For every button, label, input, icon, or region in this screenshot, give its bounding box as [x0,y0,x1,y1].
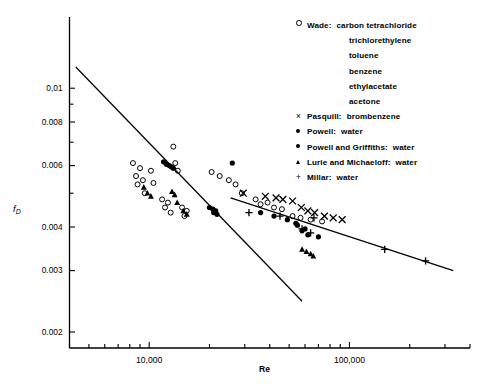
legend-entry: ×Pasquill:brombenzene [296,109,481,124]
data-point-filled-triangle [174,199,180,205]
x-axis-label: Re [259,364,270,374]
data-point-filled-triangle [141,184,147,190]
data-point-filled-circle [230,160,235,165]
y-tick-label: 0,01 [0,83,63,93]
chart-legend: Wade:carbon tetrachloridetrichlorethylen… [296,18,481,185]
legend-substance-label: trichlorethylene [296,33,411,48]
data-point-open-circle [217,174,222,179]
y-tick-label: 0.003 [0,265,63,275]
x-tick-label: 100,000 [309,355,389,365]
data-point-filled-circle [271,213,276,218]
data-point-open-circle [140,178,145,183]
y-tick-label: 0.008 [0,117,63,127]
data-point-filled-circle [214,212,219,217]
data-point-open-circle [226,178,231,183]
legend-marker-filled-circle-icon [296,140,307,155]
legend-author-label: Powell: [307,124,336,139]
data-point-open-circle [165,200,170,205]
trend-line [231,198,454,271]
legend-author-label: Powell and Griffiths: [307,140,388,155]
data-point-open-circle [253,197,258,202]
y-tick-label: 0.006 [0,160,63,170]
data-point-filled-circle [171,166,176,171]
data-point-cross-x [273,194,280,201]
data-point-cross-x [298,204,305,211]
data-point-open-circle [135,182,140,187]
legend-author-label: Lurie and Michaeloff: [307,155,391,170]
legend-entry: toluene [296,48,481,63]
data-point-open-circle [168,210,173,215]
data-point-cross-x [304,207,311,214]
legend-substance-label: ethylacetate [296,79,397,94]
trend-line [76,67,302,301]
legend-substance-label: water [336,124,363,139]
data-point-open-circle [160,197,165,202]
legend-marker-open-circle-icon [296,18,307,33]
y-tick-label: 0.004 [0,222,63,232]
legend-substance-label: benzene [296,64,382,79]
data-point-cross-x [279,196,286,203]
data-point-open-circle [271,205,276,210]
legend-author-label: Pasquill: [307,109,342,124]
data-point-plus [245,209,252,216]
data-point-cross-x [330,214,337,221]
legend-substance-label: water [388,140,415,155]
legend-entry: ethylacetate [296,79,481,94]
legend-entry: Powell:water [296,124,481,139]
legend-entry: benzene [296,64,481,79]
data-point-cross-x [289,198,296,205]
y-tick-label: 0.002 [0,327,63,337]
legend-marker-filled-circle-icon [296,124,307,139]
data-point-filled-circle [316,234,321,239]
data-point-open-circle [138,166,143,171]
data-point-open-circle [134,174,139,179]
legend-author-label: Millar: [307,170,332,185]
data-point-open-circle [163,205,168,210]
data-point-open-circle [151,180,156,185]
legend-substance-label: acetone [296,94,380,109]
legend-entry: Lurie and Michaeloff:water [296,155,481,170]
data-point-open-circle [265,200,270,205]
data-point-plus [422,257,429,264]
legend-substance-label: toluene [296,48,378,63]
x-tick-label: 10,000 [109,355,189,365]
legend-marker-cross-x-icon: × [296,109,307,124]
figure-container: Wade:carbon tetrachloridetrichlorethylen… [0,0,481,391]
legend-substance-label: water [391,155,418,170]
legend-entry: trichlorethylene [296,33,481,48]
data-point-filled-circle [295,223,300,228]
legend-substance-label: brombenzene [342,109,401,124]
legend-marker-filled-triangle-icon [296,155,307,170]
data-point-open-circle [320,219,325,224]
data-point-cross-x [339,216,346,223]
data-point-open-circle [171,144,176,149]
series-lurie-and-michaeloff [141,184,316,258]
legend-entry: +Millar:water [296,170,481,185]
legend-marker-plus-icon: + [296,170,307,185]
data-point-filled-triangle [299,246,305,252]
legend-substance-label: water [332,170,359,185]
data-point-open-circle [148,168,153,173]
data-point-open-circle [130,161,135,166]
legend-entry: acetone [296,94,481,109]
data-point-open-circle [258,202,263,207]
data-point-open-circle [233,182,238,187]
data-point-cross-x [262,193,269,200]
legend-entry: Wade:carbon tetrachloride [296,18,481,33]
data-point-filled-circle [285,217,290,222]
data-point-open-circle [279,207,284,212]
legend-entry: Powell and Griffiths:water [296,140,481,155]
data-point-open-circle [173,161,178,166]
legend-author-label: Wade: [307,18,331,33]
y-axis-label: fD [13,203,21,215]
legend-substance-label: carbon tetrachloride [331,18,416,33]
data-point-cross-x [321,213,328,220]
data-point-open-circle [209,170,214,175]
data-point-filled-circle [258,210,263,215]
data-point-open-circle [298,215,303,220]
